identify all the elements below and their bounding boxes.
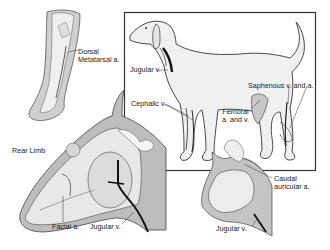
label-dog-jugular: Jugular v. (130, 66, 161, 74)
label-cow-jugular: Jugular v. (216, 225, 247, 233)
rear-limb-panel (29, 10, 80, 121)
label-rear-limb: Rear Limb (12, 147, 45, 155)
label-dorsal-metatarsal: Dorsal Metatarsal a. (78, 48, 120, 64)
illustrations (0, 0, 330, 250)
label-caudal-auricular: Caudal auricular a. (274, 175, 310, 191)
label-saphenous: Saphenous v. and a. (248, 82, 313, 90)
label-femoral: Femoral a. and v. (222, 108, 249, 124)
anatomy-figure: Dorsal Metatarsal a. Rear Limb Jugular v… (0, 0, 330, 250)
label-facial: Facial a. (52, 223, 79, 231)
label-cephalic: Cephalic v. (131, 100, 166, 108)
label-horse-jugular: Jugular v. (90, 223, 121, 231)
